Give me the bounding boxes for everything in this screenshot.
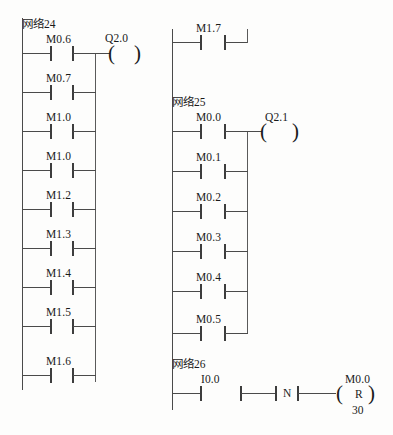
contact-m07-left-bar — [50, 85, 52, 100]
contact-label-m03: M0.3 — [196, 231, 221, 243]
rung-wire — [73, 53, 96, 54]
rung-wire — [22, 53, 50, 54]
contact-i00-left-bar — [200, 386, 202, 401]
coil-label-m00-reset: M0.0 — [345, 373, 370, 385]
contact-m04-left-bar — [200, 284, 202, 299]
edge-block-n-letter: N — [283, 387, 291, 399]
contact-label-m17: M1.7 — [196, 22, 221, 34]
contact-m02-left-bar — [200, 204, 202, 219]
rung-wire — [225, 211, 248, 212]
rung-wire — [225, 131, 248, 132]
rung-wire — [73, 287, 96, 288]
coil-q20-left-arc: ( — [108, 43, 115, 64]
coil-q21-right-arc: ) — [292, 121, 299, 142]
coil-label-q21: Q2.1 — [265, 111, 288, 123]
reset-coil-lead-wire — [298, 393, 336, 394]
contact-m16-left-bar — [50, 368, 52, 383]
contact-label-m05: M0.5 — [196, 313, 221, 325]
contact-label-m00: M0.0 — [196, 111, 221, 123]
contact-label-m13: M1.3 — [46, 228, 71, 240]
rung-wire — [22, 209, 50, 210]
rung-wire — [225, 251, 248, 252]
contact-label-m07: M0.7 — [46, 72, 71, 84]
network-25-branch-rail — [247, 131, 248, 334]
rung-wire — [172, 131, 200, 132]
rung-wire — [73, 375, 96, 376]
contact-label-m04: M0.4 — [196, 271, 221, 283]
contact-m15-left-bar — [50, 319, 52, 334]
contact-m01-left-bar — [200, 164, 202, 179]
rung-wire — [225, 42, 248, 43]
contact-label-m14: M1.4 — [46, 267, 71, 279]
rung-wire — [172, 211, 200, 212]
rung-wire — [73, 209, 96, 210]
rung-wire — [73, 170, 96, 171]
contact-label-m10-a: M1.0 — [46, 111, 71, 123]
rung-wire — [22, 92, 50, 93]
contact-label-m16: M1.6 — [46, 355, 71, 367]
contact-m13-left-bar — [50, 241, 52, 256]
ladder-diagram-canvas: 网络24 M0.6 Q2.0 ( ) M0.7 M1.0 M1.0 M1.2 M… — [0, 0, 393, 435]
contact-m03-left-bar — [200, 244, 202, 259]
coil-q20-right-arc: ) — [134, 43, 141, 64]
reset-coil-left-arc: ( — [336, 383, 343, 404]
rung-wire — [172, 393, 200, 394]
network-24-label: 网络24 — [22, 18, 56, 30]
contact-m14-left-bar — [50, 280, 52, 295]
rung-wire — [225, 333, 248, 334]
rung-wire — [22, 170, 50, 171]
reset-coil-right-arc: ) — [368, 383, 375, 404]
network-24-branch-rail — [95, 53, 96, 382]
contact-label-m06: M0.6 — [46, 33, 71, 45]
contact-m05-left-bar — [200, 326, 202, 341]
rung-wire — [22, 287, 50, 288]
edge-block-n-left-bar — [275, 386, 277, 401]
network-24-left-rail — [22, 18, 23, 390]
rung-wire — [73, 131, 96, 132]
reset-coil-operator: R — [355, 388, 363, 400]
contact-label-m02: M0.2 — [196, 191, 221, 203]
rung-wire — [73, 326, 96, 327]
rung-wire — [225, 291, 248, 292]
reset-coil-value: 30 — [352, 404, 364, 416]
rung-wire — [172, 171, 200, 172]
rung-wire — [22, 326, 50, 327]
rung-wire — [22, 131, 50, 132]
coil-q21-left-arc: ( — [260, 121, 267, 142]
rung-wire — [73, 92, 96, 93]
contact-label-i00: I0.0 — [201, 373, 220, 385]
contact-label-m15: M1.5 — [46, 306, 71, 318]
contact-m12-left-bar — [50, 202, 52, 217]
contact-m17-left-bar — [200, 35, 202, 50]
contact-label-m01: M0.1 — [196, 151, 221, 163]
network-24-right-branch-close — [247, 29, 248, 43]
edge-block-lead-wire — [241, 393, 275, 394]
rung-wire — [225, 171, 248, 172]
contact-label-m12: M1.2 — [46, 189, 71, 201]
contact-label-m10-b: M1.0 — [46, 150, 71, 162]
rung-wire — [22, 375, 50, 376]
contact-m10-b-left-bar — [50, 163, 52, 178]
rung-wire — [22, 248, 50, 249]
rung-wire — [172, 333, 200, 334]
right-column-power-rail — [172, 29, 173, 410]
rung-wire — [73, 248, 96, 249]
contact-m10-a-left-bar — [50, 124, 52, 139]
rung-wire — [172, 251, 200, 252]
rung-wire — [172, 42, 200, 43]
rung-wire — [172, 291, 200, 292]
contact-m06-left-bar — [50, 46, 52, 61]
contact-m00-left-bar — [200, 124, 202, 139]
network-25-label: 网络25 — [172, 96, 206, 108]
network-26-label: 网络26 — [172, 358, 206, 370]
